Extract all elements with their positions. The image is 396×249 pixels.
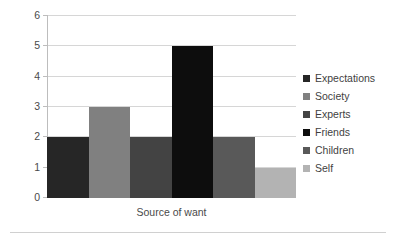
legend-item-expectations[interactable]: Expectations xyxy=(303,69,393,87)
y-tick-label-5: 5 xyxy=(34,40,47,51)
y-tick-label-0: 0 xyxy=(34,192,47,203)
legend-item-society[interactable]: Society xyxy=(303,87,393,105)
bar-slot-self xyxy=(255,15,297,198)
plot-area: 6 5 4 3 2 1 0 xyxy=(47,15,296,198)
legend-label-experts: Experts xyxy=(315,109,351,120)
bar-slot-experts xyxy=(130,15,172,198)
legend-item-friends[interactable]: Friends xyxy=(303,123,393,141)
x-axis-title: Source of want xyxy=(47,206,296,218)
bars-group xyxy=(47,15,296,198)
legend-swatch-icon-children xyxy=(303,147,310,154)
legend-label-expectations: Expectations xyxy=(315,73,375,84)
bar-slot-society xyxy=(89,15,131,198)
legend-swatch-icon-experts xyxy=(303,111,310,118)
legend-swatch-icon-friends xyxy=(303,129,310,136)
bar-chart-figure: 6 5 4 3 2 1 0 xyxy=(0,0,396,249)
bar-society[interactable] xyxy=(89,107,131,199)
y-tick-label-1: 1 xyxy=(34,161,47,172)
chart-legend: Expectations Society Experts Friends Chi… xyxy=(303,69,393,177)
bar-expectations[interactable] xyxy=(47,137,89,198)
bar-slot-friends xyxy=(172,15,214,198)
legend-label-self: Self xyxy=(315,163,333,174)
bar-slot-expectations xyxy=(47,15,89,198)
legend-label-children: Children xyxy=(315,145,354,156)
bar-slot-children xyxy=(213,15,255,198)
y-tick-label-6: 6 xyxy=(34,10,47,21)
legend-item-experts[interactable]: Experts xyxy=(303,105,393,123)
legend-swatch-icon-self xyxy=(303,165,310,172)
legend-swatch-icon-expectations xyxy=(303,75,310,82)
y-tick-label-3: 3 xyxy=(34,101,47,112)
bar-experts[interactable] xyxy=(130,137,172,198)
bar-self[interactable] xyxy=(255,168,297,199)
bar-children[interactable] xyxy=(213,137,255,198)
legend-label-friends: Friends xyxy=(315,127,350,138)
legend-label-society: Society xyxy=(315,91,349,102)
legend-item-children[interactable]: Children xyxy=(303,141,393,159)
bar-friends[interactable] xyxy=(172,46,214,199)
y-tick-label-2: 2 xyxy=(34,131,47,142)
legend-item-self[interactable]: Self xyxy=(303,159,393,177)
legend-swatch-icon-society xyxy=(303,93,310,100)
footer-divider xyxy=(10,232,386,233)
y-tick-label-4: 4 xyxy=(34,70,47,81)
